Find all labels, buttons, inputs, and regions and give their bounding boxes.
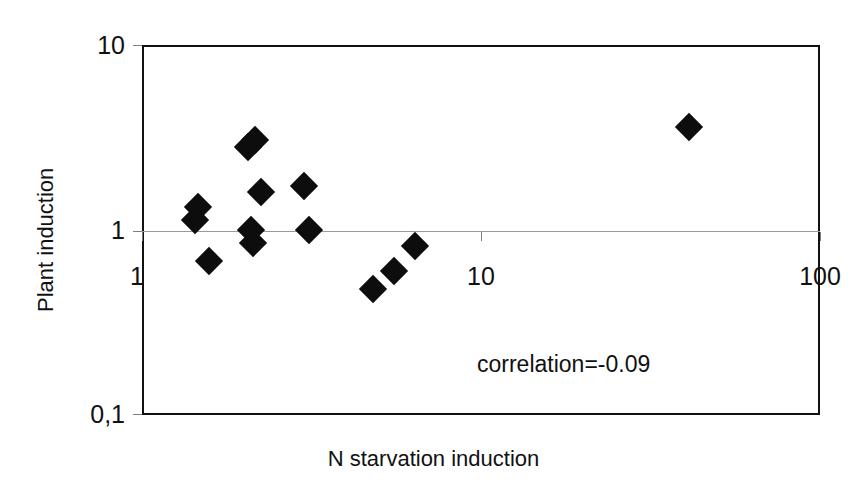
data-point-marker xyxy=(675,113,703,141)
data-point-marker xyxy=(380,257,408,285)
data-point-marker xyxy=(195,247,223,275)
data-point-marker xyxy=(401,232,429,260)
data-point-marker xyxy=(290,172,318,200)
data-point-marker xyxy=(247,178,275,206)
data-point-marker xyxy=(294,216,322,244)
data-markers-layer xyxy=(0,0,867,484)
data-point-marker xyxy=(359,275,387,303)
scatter-plot-figure: 10 1 0,1 1 10 100 Plant induction N star… xyxy=(0,0,867,484)
